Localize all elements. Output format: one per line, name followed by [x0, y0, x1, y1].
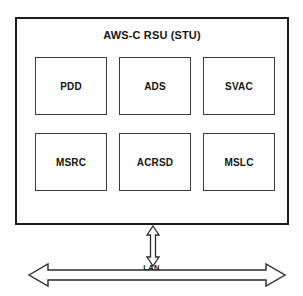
- lan-bus: [28, 258, 286, 292]
- module-box-mslc[interactable]: MSLC: [203, 133, 275, 191]
- module-grid: PDD ADS SVAC MSRC ACRSD MSLC: [35, 57, 275, 212]
- diagram-canvas: AWS-C RSU (STU) PDD ADS SVAC MSRC ACRSD …: [0, 0, 303, 296]
- module-box-ads[interactable]: ADS: [119, 57, 191, 115]
- module-label-msrc: MSRC: [56, 157, 86, 168]
- double-headed-horizontal-arrow-icon: [28, 258, 286, 292]
- module-label-ads: ADS: [144, 81, 166, 92]
- module-box-acrsd[interactable]: ACRSD: [119, 133, 191, 191]
- module-box-svac[interactable]: SVAC: [203, 57, 275, 115]
- module-box-pdd[interactable]: PDD: [35, 57, 107, 115]
- system-title: AWS-C RSU (STU): [17, 29, 287, 42]
- module-label-acrsd: ACRSD: [137, 157, 174, 168]
- module-box-msrc[interactable]: MSRC: [35, 133, 107, 191]
- module-label-mslc: MSLC: [224, 157, 253, 168]
- module-label-svac: SVAC: [225, 81, 253, 92]
- system-container: AWS-C RSU (STU) PDD ADS SVAC MSRC ACRSD …: [15, 17, 289, 225]
- module-label-pdd: PDD: [60, 81, 82, 92]
